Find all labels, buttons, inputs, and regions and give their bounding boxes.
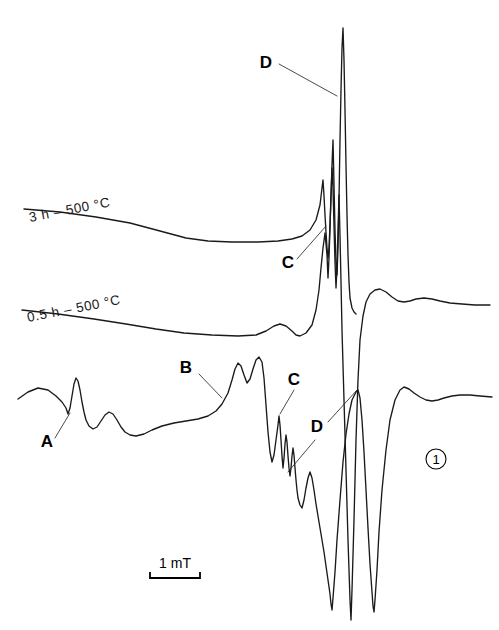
spectra-plot: D C B C A D 3 h – 500 °C 0.5 h – 500 °C … [0, 0, 499, 630]
panel-marker-label: 1 [432, 452, 439, 467]
epr-figure-root: D C B C A D 3 h – 500 °C 0.5 h – 500 °C … [0, 0, 499, 630]
annotation-label-d-top: D [260, 53, 272, 72]
scale-bar-label: 1 mT [159, 555, 191, 571]
annotation-label-a-bottom: A [41, 432, 53, 451]
annotation-label-c-bottom: C [288, 370, 300, 389]
annotation-label-c-top: C [282, 253, 294, 272]
annotation-label-d-bottom: D [311, 417, 323, 436]
annotation-label-b-bottom: B [180, 358, 192, 377]
